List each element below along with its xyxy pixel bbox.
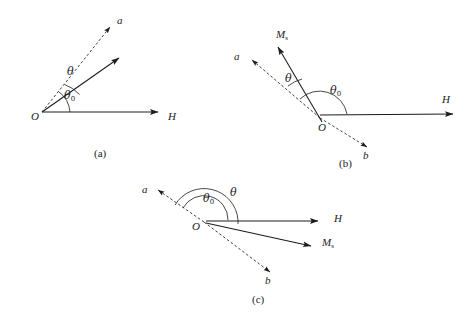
panel-a-caption: (a): [94, 148, 106, 159]
diagram-canvas: [0, 0, 475, 318]
panel-a-field-label: H: [168, 111, 176, 122]
panel-c-magnetization-line: [206, 223, 311, 246]
panel-b-graphics: [252, 47, 453, 147]
panel-c-caption: (c): [252, 294, 264, 305]
panel-b-axis-a-label: a: [234, 51, 240, 62]
panel-b-axis-b-label: b: [363, 150, 369, 161]
panel-b-field-label: H: [442, 94, 450, 105]
panel-b-axis-a-line: [252, 60, 320, 118]
panel-c-axis-a-label: a: [142, 184, 148, 195]
panel-c-magnetization-label: Ms: [322, 237, 334, 248]
figure-root: O a H θ θ0 (a) O a b Ms H θ θ0 (b) O a b…: [0, 0, 475, 318]
panel-b-caption: (b): [339, 158, 352, 169]
panel-b-theta0-label: θ0: [330, 85, 341, 96]
panel-c-axis-b-label: b: [265, 275, 271, 286]
panel-a-theta0-label: θ0: [64, 90, 75, 101]
panel-b-theta-label: θ: [285, 73, 292, 84]
panel-a-axis-a-label: a: [117, 15, 123, 26]
panel-c-theta0-label: θ0: [203, 193, 214, 204]
panel-a-graphics: [42, 27, 158, 112]
panel-a-magnetization-line: [42, 58, 119, 112]
panel-a-axis-a-line: [42, 27, 110, 112]
panel-c-axis-a-line: [158, 190, 204, 222]
panel-b-magnetization-label: Ms: [276, 29, 288, 40]
panel-c-graphics: [158, 189, 318, 272]
panel-b-axis-b-line: [320, 118, 367, 147]
panel-a-origin-label: O: [31, 111, 39, 122]
panel-c-origin-label: O: [192, 221, 200, 232]
panel-c-theta-label: θ: [230, 187, 237, 198]
panel-b-field-line: [320, 114, 453, 115]
panel-a-theta-label: θ: [67, 66, 74, 77]
panel-b-origin-label: O: [318, 122, 326, 133]
panel-c-field-label: H: [334, 213, 342, 224]
